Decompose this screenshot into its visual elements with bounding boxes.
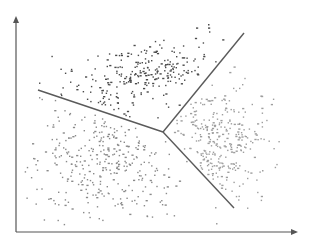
cluster-point <box>278 141 279 142</box>
cluster-point <box>167 186 169 187</box>
cluster-point <box>113 179 115 180</box>
cluster-point <box>234 111 235 112</box>
cluster-point <box>100 101 101 102</box>
cluster-point <box>149 46 151 47</box>
cluster-point <box>236 151 238 152</box>
cluster-point <box>200 128 201 129</box>
cluster-point <box>257 192 258 193</box>
cluster-point <box>183 45 184 46</box>
cluster-point <box>207 160 209 161</box>
cluster-point <box>87 193 88 194</box>
cluster-point <box>182 134 184 135</box>
cluster-point <box>136 136 137 137</box>
cluster-point <box>171 66 172 67</box>
cluster-point <box>166 193 167 194</box>
cluster-point <box>198 140 199 141</box>
cluster-point <box>80 190 82 191</box>
cluster-point <box>157 53 159 54</box>
outlier-point <box>262 170 264 172</box>
cluster-point <box>103 90 104 91</box>
cluster-point <box>227 172 229 173</box>
cluster-point <box>100 181 101 182</box>
cluster-point <box>107 186 108 187</box>
cluster-point <box>133 159 134 160</box>
cluster-point <box>54 163 55 164</box>
cluster-point <box>107 78 108 79</box>
cluster-point <box>220 155 221 156</box>
cluster-point <box>31 177 32 178</box>
cluster-point <box>126 76 127 77</box>
cluster-point <box>81 182 82 183</box>
cluster-point <box>154 52 155 53</box>
cluster-point <box>231 163 233 164</box>
cluster-point <box>180 116 181 117</box>
cluster-point <box>165 65 166 66</box>
cluster-point <box>148 82 149 83</box>
cluster-point <box>121 55 123 56</box>
cluster-point <box>250 172 252 173</box>
cluster-point <box>173 72 174 73</box>
cluster-point <box>224 145 226 146</box>
cluster-point <box>168 107 169 108</box>
cluster-point <box>209 151 210 152</box>
cluster-point <box>200 102 201 103</box>
cluster-point <box>81 184 83 185</box>
cluster-point <box>273 148 274 149</box>
cluster-point <box>84 177 85 178</box>
cluster-point <box>180 75 181 76</box>
cluster-point <box>98 189 99 190</box>
cluster-point <box>102 220 103 221</box>
cluster-point <box>143 68 144 69</box>
cluster-point <box>214 142 215 143</box>
cluster-point <box>175 185 177 186</box>
cluster-point <box>141 94 142 95</box>
cluster-point <box>178 74 179 75</box>
cluster-point <box>130 81 131 82</box>
y-axis-arrow-icon <box>13 16 19 23</box>
cluster-point <box>165 141 166 142</box>
cluster-point <box>197 151 198 152</box>
cluster-point <box>128 129 130 130</box>
cluster-point <box>197 127 198 128</box>
cluster-point <box>196 110 197 111</box>
cluster-point <box>257 123 259 124</box>
cluster-point <box>109 138 110 139</box>
cluster-point <box>65 149 66 150</box>
cluster-point <box>95 80 96 81</box>
cluster-point <box>119 81 120 82</box>
cluster-point <box>190 113 192 114</box>
cluster-point <box>83 91 84 92</box>
cluster-point <box>89 212 90 213</box>
cluster-point <box>254 157 256 158</box>
cluster-point <box>183 65 185 66</box>
cluster-point <box>132 201 133 202</box>
cluster-point <box>228 167 229 168</box>
cluster-point <box>95 68 96 69</box>
cluster-point <box>176 67 177 68</box>
cluster-point <box>262 126 263 127</box>
cluster-point <box>39 83 40 84</box>
cluster-point <box>229 72 231 73</box>
cluster-point <box>116 163 117 164</box>
cluster-point <box>192 121 193 122</box>
cluster-point <box>110 173 111 174</box>
cluster-point <box>106 126 107 127</box>
cluster-point <box>209 31 210 32</box>
cluster-point <box>203 42 204 43</box>
cluster-point <box>155 152 156 153</box>
cluster-point <box>95 115 96 116</box>
cluster-point <box>212 85 213 86</box>
cluster-point <box>193 116 194 117</box>
cluster-point <box>203 129 204 130</box>
cluster-point <box>94 137 95 138</box>
cluster-point <box>191 71 192 72</box>
cluster-point <box>109 84 110 85</box>
cluster-point <box>107 136 109 137</box>
cluster-point <box>94 120 95 121</box>
cluster-point <box>211 145 212 146</box>
cluster-point <box>58 192 59 193</box>
cluster-point <box>202 169 203 170</box>
cluster-point <box>154 175 155 176</box>
cluster-point <box>231 109 232 110</box>
cluster-point <box>114 67 116 68</box>
